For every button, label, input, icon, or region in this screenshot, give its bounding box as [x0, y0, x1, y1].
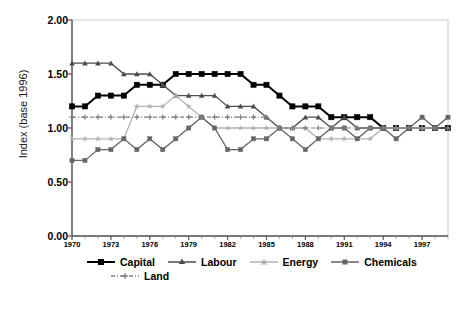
legend-label-energy: Energy — [283, 257, 319, 268]
legend-label-chemicals: Chemicals — [364, 257, 417, 268]
legend-swatch-chemicals — [330, 257, 360, 267]
legend-row-2: Land — [72, 271, 452, 282]
chart-legend: Capital Labour Energy — [72, 257, 452, 281]
x-tick-1994: 1994 — [375, 240, 392, 249]
x-tick-1976: 1976 — [141, 240, 158, 249]
legend-item-chemicals[interactable]: Chemicals — [330, 257, 417, 268]
legend-item-capital[interactable]: Capital — [86, 257, 155, 268]
legend-swatch-land — [110, 271, 140, 281]
legend-item-labour[interactable]: Labour — [167, 257, 237, 268]
x-tick-1982: 1982 — [219, 240, 236, 249]
chart-figure: Index (base 1996) 2.00 1.50 1.00 0.50 0.… — [0, 0, 474, 311]
legend-item-land[interactable]: Land — [110, 271, 169, 282]
legend-label-land: Land — [144, 271, 169, 282]
x-tick-1988: 1988 — [297, 240, 314, 249]
x-tick-1991: 1991 — [336, 240, 353, 249]
legend-swatch-capital — [86, 257, 116, 267]
legend-label-labour: Labour — [201, 257, 237, 268]
legend-item-energy[interactable]: Energy — [249, 257, 319, 268]
x-tick-1985: 1985 — [258, 240, 275, 249]
legend-swatch-labour — [167, 257, 197, 267]
x-tick-1979: 1979 — [180, 240, 197, 249]
legend-swatch-energy — [249, 257, 279, 267]
legend-row-1: Capital Labour Energy — [72, 257, 452, 268]
legend-label-capital: Capital — [120, 257, 155, 268]
x-tick-1973: 1973 — [103, 240, 120, 249]
x-tick-1970: 1970 — [64, 240, 81, 249]
x-tick-1997: 1997 — [414, 240, 431, 249]
